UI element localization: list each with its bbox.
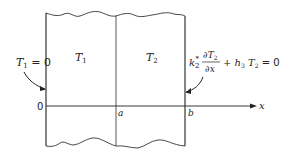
- top-wavy-edge-right: [116, 13, 185, 17]
- right-bc-arrow: [186, 77, 203, 92]
- right-boundary-condition: k2* ∂T2 ∂x + h3 T2 = 0: [189, 50, 280, 74]
- two-layer-slab-diagram: T1 T2 T1 = 0 k2* ∂T2 ∂x + h3 T2 = 0 0 a …: [0, 0, 284, 159]
- left-bc-arrow: [24, 72, 45, 89]
- region-2-label: T2: [146, 51, 158, 65]
- bottom-wavy-edge-left: [46, 138, 116, 146]
- svg-text:∂x: ∂x: [205, 64, 215, 74]
- x-axis-label: x: [259, 100, 265, 111]
- top-wavy-edge-left: [46, 11, 116, 16]
- x-axis-arrow-icon: [250, 104, 257, 109]
- left-bc-arrowhead-icon: [40, 86, 46, 91]
- svg-text:∂T2: ∂T2: [203, 50, 218, 61]
- right-bc-arrowhead-icon: [186, 88, 192, 94]
- region-1-label: T1: [75, 51, 87, 65]
- left-boundary-condition: T1 = 0: [16, 56, 51, 70]
- bottom-wavy-edge-right: [116, 140, 185, 148]
- svg-text:+ h3 T2 = 0: + h3 T2 = 0: [223, 57, 280, 69]
- origin-label: 0: [37, 101, 43, 112]
- svg-text:k2*: k2*: [189, 55, 200, 70]
- interface-label-a: a: [118, 108, 123, 118]
- right-wall-label-b: b: [188, 108, 194, 118]
